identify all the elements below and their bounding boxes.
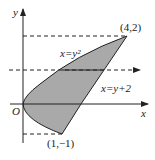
line-label: x=y+2	[100, 82, 132, 94]
point-label-1-neg1: (1,−1)	[47, 137, 75, 150]
x-axis-label: x	[140, 107, 146, 119]
origin-label: O	[12, 105, 20, 117]
region-diagram: y x O x=y² x=y+2 (4,2) (1,−1)	[0, 0, 155, 160]
parabola-label: x=y²	[59, 47, 81, 59]
y-axis-label: y	[12, 6, 18, 18]
point-label-4-2: (4,2)	[120, 21, 141, 34]
